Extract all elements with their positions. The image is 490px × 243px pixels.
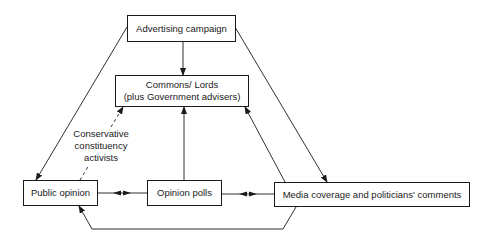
diagram-canvas: Advertising campaign Commons/ Lords (plu… bbox=[0, 0, 490, 243]
commons-lords-node: Commons/ Lords (plus Government advisers… bbox=[115, 75, 249, 107]
public-opinion-node: Public opinion bbox=[23, 180, 98, 206]
advertising-campaign-node: Advertising campaign bbox=[127, 15, 236, 42]
edge-activists-commons-upper bbox=[111, 107, 123, 127]
edge-media-commons bbox=[245, 107, 285, 182]
activists-label-line2: constituency bbox=[70, 140, 132, 152]
media-coverage-label: Media coverage and politicians' comments bbox=[283, 189, 462, 201]
activists-label: Conservative constituency activists bbox=[70, 128, 132, 164]
commons-lords-label: Commons/ Lords bbox=[146, 79, 218, 91]
government-advisers-label: (plus Government advisers) bbox=[124, 91, 241, 103]
activists-label-line1: Conservative bbox=[70, 128, 132, 140]
media-coverage-node: Media coverage and politicians' comments bbox=[274, 182, 470, 207]
opinion-polls-label: Opinion polls bbox=[157, 187, 212, 199]
opinion-polls-node: Opinion polls bbox=[147, 180, 222, 206]
edge-media-public bbox=[79, 206, 296, 229]
public-opinion-label: Public opinion bbox=[31, 187, 90, 199]
activists-label-line3: activists bbox=[70, 152, 132, 164]
edge-activists-commons bbox=[80, 165, 89, 180]
advertising-campaign-label: Advertising campaign bbox=[136, 23, 227, 35]
